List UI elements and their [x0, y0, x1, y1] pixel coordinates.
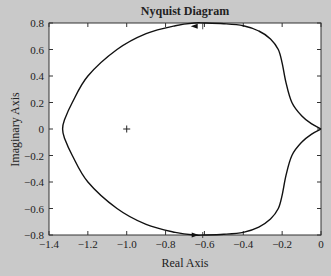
y-tick-label: 0.4: [30, 70, 44, 82]
y-tick-label: −0.6: [24, 203, 44, 215]
nyquist-plot: −1.4−1.2−1.0−0.8−0.6−0.4−0.200.80.60.40.…: [0, 0, 331, 276]
x-tick-label: −1.2: [78, 238, 98, 250]
x-tick-label: −0.8: [156, 238, 176, 250]
x-tick-label: −0.4: [233, 238, 253, 250]
y-tick-label: 0: [39, 123, 45, 135]
y-tick-label: −0.4: [24, 176, 44, 188]
y-tick-label: 0.6: [30, 44, 44, 56]
x-tick-label: 0: [318, 238, 324, 250]
x-tick-label: −0.2: [272, 238, 292, 250]
y-tick-label: 0.2: [30, 97, 44, 109]
y-tick-label: 0.8: [30, 17, 44, 29]
x-tick-label: −0.6: [194, 238, 214, 250]
y-tick-label: −0.8: [24, 229, 44, 241]
x-tick-label: −1.0: [117, 238, 137, 250]
y-tick-label: −0.2: [24, 150, 44, 162]
